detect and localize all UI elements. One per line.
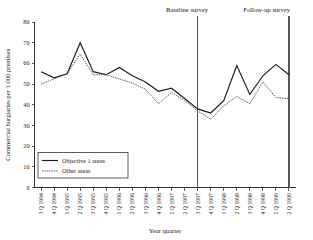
x-tick-label: 4 Q 1995 [103,193,109,215]
x-tick-label: 3 Q 1997 [195,193,201,215]
x-tick-label: 3 Q 1995 [90,193,96,215]
y-tick-label-40: 40 [23,101,29,108]
chart-figure: 0 10 20 30 40 50 60 70 80 Commercial bur… [0,0,313,240]
legend-label-objective-1-areas: Objective 1 areas [62,157,106,164]
x-tick-label: 2 Q 1995 [77,193,83,215]
x-tick-label: 4 Q 1996 [156,193,162,215]
y-tick-label-60: 60 [23,59,29,66]
x-tick-label: 3 Q 1994 [38,193,44,215]
y-tick-label-0: 0 [26,184,29,191]
chart-legend: Objective 1 areas Other areas [38,153,128,179]
legend-label-other-areas: Other areas [62,167,91,174]
x-tick-label: 4 Q 1994 [51,193,57,215]
x-tick-label: 4 Q 1998 [260,193,266,215]
x-tick-label: 2 Q 1998 [234,193,240,215]
series-line-objective-1-areas [41,43,289,113]
x-tick-label: 1 Q 1998 [221,193,227,215]
y-tick-label-80: 80 [23,18,29,25]
x-axis-title: Year quarter [149,227,182,234]
x-tick-label: 1 Q 1996 [116,193,122,215]
x-tick-label: 3 Q 1996 [143,193,149,215]
x-tick-label: 1 Q 1995 [64,193,70,215]
x-axis-tick-labels: 3 Q 19944 Q 19941 Q 19952 Q 19953 Q 1995… [38,193,292,215]
x-tick-label: 4 Q 1997 [208,193,214,215]
y-axis-title: Commercial burglaries per 1 000 premises [4,48,11,161]
x-tick-label: 1 Q 1999 [273,193,279,215]
series-line-other-areas [41,54,289,119]
x-tick-label: 2 Q 1996 [129,193,135,215]
y-tick-label-30: 30 [23,122,29,129]
survey-marker-lines [198,16,289,188]
y-tick-label-50: 50 [23,80,29,87]
line-chart: 0 10 20 30 40 50 60 70 80 Commercial bur… [0,0,313,240]
y-tick-label-70: 70 [23,39,29,46]
y-axis-tick-labels: 0 10 20 30 40 50 60 70 80 [23,18,29,191]
y-tick-label-20: 20 [23,142,29,149]
baseline-survey-label: Baseline survey [166,6,209,13]
followup-survey-label: Follow-up survey [243,6,290,13]
x-tick-label: 2 Q 1997 [182,193,188,215]
y-tick-label-10: 10 [23,163,29,170]
x-tick-label: 2 Q 1999 [286,193,292,215]
x-tick-label: 1 Q 1997 [169,193,175,215]
x-tick-label: 3 Q 1998 [247,193,253,215]
